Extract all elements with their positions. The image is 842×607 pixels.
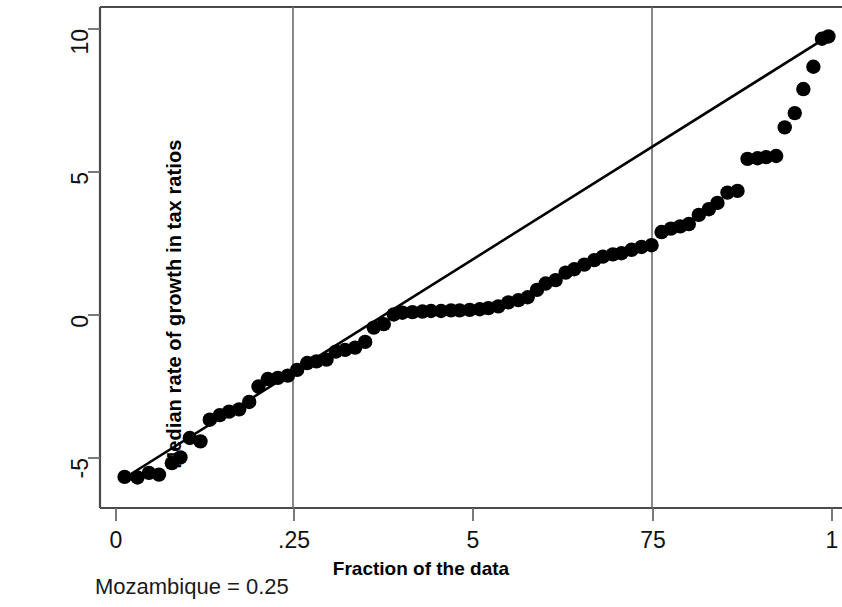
reference-line <box>125 36 829 478</box>
data-point <box>806 60 820 74</box>
plot-frame <box>100 7 842 508</box>
y-tick-label-10: 10 <box>67 29 94 55</box>
x-tick-label-0: 0 <box>110 527 123 554</box>
y-axis-ticks <box>88 29 100 458</box>
data-point <box>769 149 783 163</box>
data-point <box>193 434 207 448</box>
data-point <box>152 467 166 481</box>
scatter-plot-canvas <box>0 0 842 607</box>
data-point <box>358 335 372 349</box>
x-tick-label-1: .25 <box>278 527 310 554</box>
data-point <box>730 184 744 198</box>
y-axis-title: Median rate of growth in tax ratios <box>163 139 186 468</box>
x-tick-label-2: 5 <box>467 527 480 554</box>
chart-figure: 0 .25 5 75 1 10 5 0 -5 Median rate of gr… <box>0 0 842 607</box>
data-point <box>644 238 658 252</box>
x-tick-label-3: 75 <box>640 527 666 554</box>
reference-line-path <box>125 36 829 478</box>
y-tick-label-5: 5 <box>67 172 94 185</box>
x-axis-ticks <box>116 508 832 521</box>
footnote-annotation: Mozambique = 0.25 <box>95 574 289 600</box>
data-point <box>788 106 802 120</box>
x-tick-label-4: 1 <box>826 527 839 554</box>
y-tick-label-neg5: -5 <box>67 458 94 478</box>
data-point <box>796 82 810 96</box>
y-tick-label-0: 0 <box>67 315 94 328</box>
data-point <box>710 196 724 210</box>
data-point <box>778 120 792 134</box>
